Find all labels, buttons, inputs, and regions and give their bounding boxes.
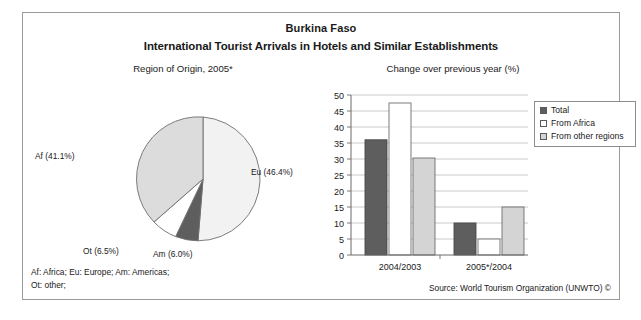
bar-chart-subtitle: Change over previous year (%) (323, 63, 583, 74)
figure-main-title: International Tourist Arrivals in Hotels… (23, 40, 619, 52)
pie-chart: Af (41.1%) Eu (46.4%) Ot (6.5%) Am (6.0%… (31, 83, 321, 263)
x-category-2005-2004: 2005*/2004 (466, 262, 512, 272)
pie-chart-subtitle: Region of Origin, 2005* (53, 63, 313, 74)
page-title: Burkina Faso (23, 22, 619, 34)
y-tick-10: 10 (334, 219, 344, 229)
legend-label-from-other-regions: From other regions (551, 132, 624, 141)
legend-item-total: Total (540, 106, 630, 115)
y-tick-0: 0 (339, 251, 344, 261)
pie-slice-eu (198, 117, 260, 241)
bar-total-2005-2004 (454, 223, 476, 255)
pie-label-af: Af (41.1%) (35, 151, 75, 161)
figure-frame: Burkina Faso International Tourist Arriv… (22, 12, 620, 300)
y-tick-25: 25 (334, 171, 344, 181)
legend-swatch-total (540, 107, 547, 114)
footnote-block: Af: Africa; Eu: Europe; Am: Americas; Ot… (31, 266, 169, 292)
bar-from-africa-2004-2003 (389, 103, 411, 255)
y-tick-40: 40 (334, 123, 344, 133)
y-tick-5: 5 (339, 235, 344, 245)
legend-item-from-africa: From Africa (540, 119, 630, 128)
legend-item-from-other-regions: From other regions (540, 132, 630, 141)
footnote-line-1: Af: Africa; Eu: Europe; Am: Americas; (31, 266, 169, 279)
bar-from-other-regions-2004-2003 (413, 158, 435, 255)
pie-label-eu: Eu (46.4%) (251, 167, 293, 177)
pie-label-am: Am (6.0%) (153, 249, 193, 259)
legend-swatch-from-other-regions (540, 133, 547, 140)
footnote-line-2: Ot: other; (31, 279, 169, 292)
bar-total-2004-2003 (365, 140, 387, 255)
y-tick-30: 30 (334, 155, 344, 165)
source-note: Source: World Tourism Organization (UNWT… (429, 283, 611, 293)
legend-label-from-africa: From Africa (551, 119, 595, 128)
bar-chart-y-tickmarks (347, 95, 351, 255)
bar-chart-legend: Total From Africa From other regions (534, 101, 636, 147)
pie-label-ot: Ot (6.5%) (83, 246, 119, 256)
legend-label-total: Total (551, 106, 569, 115)
y-tick-50: 50 (334, 91, 344, 101)
y-tick-45: 45 (334, 107, 344, 117)
y-tick-35: 35 (334, 139, 344, 149)
y-tick-20: 20 (334, 187, 344, 197)
legend-swatch-from-africa (540, 120, 547, 127)
x-category-2004-2003: 2004/2003 (379, 262, 422, 272)
bar-from-africa-2005-2004 (478, 239, 500, 255)
bar-from-other-regions-2005-2004 (502, 207, 524, 255)
y-tick-15: 15 (334, 203, 344, 213)
